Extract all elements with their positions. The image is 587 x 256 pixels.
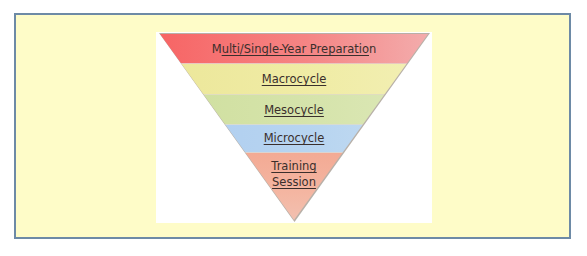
- level-4-label-text: Microcycle: [264, 131, 325, 145]
- level-5-label-line1: Training: [271, 159, 316, 173]
- level-3-label: Mesocycle: [160, 103, 428, 117]
- level-1-label-underlined: ulti/Single-Year Preparatio: [222, 42, 369, 56]
- level-1-label-prefix: M: [212, 42, 222, 56]
- level-1-label: Multi/Single-Year Preparation: [160, 42, 428, 56]
- level-4-label: Microcycle: [160, 131, 428, 145]
- level-1-label-suffix: n: [369, 42, 376, 56]
- level-3-label-text: Mesocycle: [264, 103, 324, 117]
- level-5-label: Training Session: [160, 158, 428, 190]
- level-2-label: Macrocycle: [160, 72, 428, 86]
- level-2-label-text: Macrocycle: [262, 72, 327, 86]
- level-5-label-line2: Session: [272, 175, 316, 189]
